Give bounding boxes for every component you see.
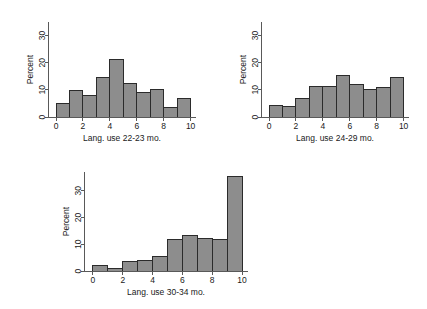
x-tick-label: 10 (237, 275, 247, 285)
x-tick-label: 8 (374, 121, 379, 131)
histogram-bar (177, 98, 190, 117)
histogram-bar (377, 87, 390, 117)
x-tick-label: 0 (54, 121, 59, 131)
histogram-svg-0: 0102030Percent0246810Lang. use 22-23 mo. (0, 4, 214, 154)
x-tick-label: 2 (294, 121, 299, 131)
histogram-bar (56, 103, 69, 117)
y-axis-title: Percent (25, 54, 35, 84)
histogram-bar (283, 106, 296, 117)
y-tick-label: 10 (250, 85, 260, 95)
histogram-bar (123, 83, 136, 117)
histogram-bar (83, 95, 96, 117)
y-axis-ticks: 0102030 (250, 31, 261, 120)
x-tick-label: 10 (186, 121, 196, 131)
histogram-bar (137, 92, 150, 117)
histogram-bar (212, 239, 227, 271)
histogram-bar (150, 89, 163, 117)
x-axis-title: Lang. use 30-34 mo. (127, 287, 205, 297)
x-tick-label: 6 (134, 121, 139, 131)
x-tick-label: 2 (81, 121, 86, 131)
y-tick-label: 30 (73, 186, 83, 196)
x-tick-label: 8 (161, 121, 166, 131)
histogram-panel-30-34-mo: 0102030Percent0246810Lang. use 30-34 mo. (36, 158, 266, 308)
y-tick-label: 0 (250, 114, 260, 119)
histogram-bar (96, 77, 109, 117)
bars-group (93, 176, 242, 271)
x-tick-label: 6 (347, 121, 352, 131)
x-tick-label: 0 (267, 121, 272, 131)
histogram-bar (350, 84, 363, 117)
x-tick-label: 4 (150, 275, 155, 285)
histogram-bar (323, 86, 336, 117)
y-tick-label: 30 (250, 31, 260, 41)
histogram-bar (197, 238, 212, 271)
histogram-bar (227, 176, 242, 271)
x-tick-label: 4 (321, 121, 326, 131)
y-tick-label: 20 (250, 58, 260, 68)
y-tick-label: 0 (37, 114, 47, 119)
y-axis-ticks: 0102030 (37, 31, 48, 120)
histogram-bar (390, 77, 403, 117)
histogram-bar (153, 256, 168, 271)
histogram-bar (110, 59, 123, 117)
histogram-bar (269, 106, 282, 117)
histogram-bar (363, 89, 376, 117)
histogram-bar (164, 108, 177, 117)
x-axis-title: Lang. use 22-23 mo. (83, 133, 161, 143)
histogram-bar (182, 235, 197, 271)
x-tick-label: 4 (108, 121, 113, 131)
histogram-bar (138, 261, 153, 271)
x-tick-label: 10 (399, 121, 409, 131)
y-tick-label: 30 (37, 31, 47, 41)
histogram-bar (93, 265, 108, 271)
x-axis-title: Lang. use 24-29 mo. (296, 133, 374, 143)
x-tick-label: 2 (120, 275, 125, 285)
x-axis-ticks: 0246810 (54, 117, 196, 131)
x-axis-ticks: 0246810 (267, 117, 409, 131)
bars-group (56, 59, 191, 117)
y-axis-title: Percent (238, 54, 248, 84)
plot-area: 0102030Percent0246810Lang. use 30-34 mo. (61, 172, 248, 297)
histogram-svg-1: 0102030Percent0246810Lang. use 24-29 mo. (213, 4, 427, 154)
histogram-bar (309, 87, 322, 117)
histogram-bar (167, 239, 182, 271)
histogram-bar (336, 75, 349, 117)
plot-area: 0102030Percent0246810Lang. use 24-29 mo. (238, 22, 409, 143)
y-axis-title: Percent (61, 206, 71, 236)
y-tick-label: 10 (37, 85, 47, 95)
x-axis-ticks: 0246810 (91, 271, 247, 285)
histogram-bar (70, 91, 83, 117)
y-tick-label: 20 (73, 212, 83, 222)
y-axis-ticks: 0102030 (73, 186, 84, 274)
bars-group (269, 75, 404, 117)
y-tick-label: 10 (73, 239, 83, 249)
y-tick-label: 0 (73, 268, 83, 273)
x-tick-label: 8 (210, 275, 215, 285)
x-tick-label: 6 (180, 275, 185, 285)
histogram-svg-2: 0102030Percent0246810Lang. use 30-34 mo. (36, 158, 266, 308)
y-tick-label: 20 (37, 58, 47, 68)
x-tick-label: 0 (91, 275, 96, 285)
histogram-bar (296, 99, 309, 117)
histogram-panel-24-29-mo: 0102030Percent0246810Lang. use 24-29 mo. (213, 4, 427, 154)
histogram-panel-22-23-mo: 0102030Percent0246810Lang. use 22-23 mo. (0, 4, 214, 154)
histogram-bar (123, 262, 138, 271)
plot-area: 0102030Percent0246810Lang. use 22-23 mo. (25, 22, 196, 143)
